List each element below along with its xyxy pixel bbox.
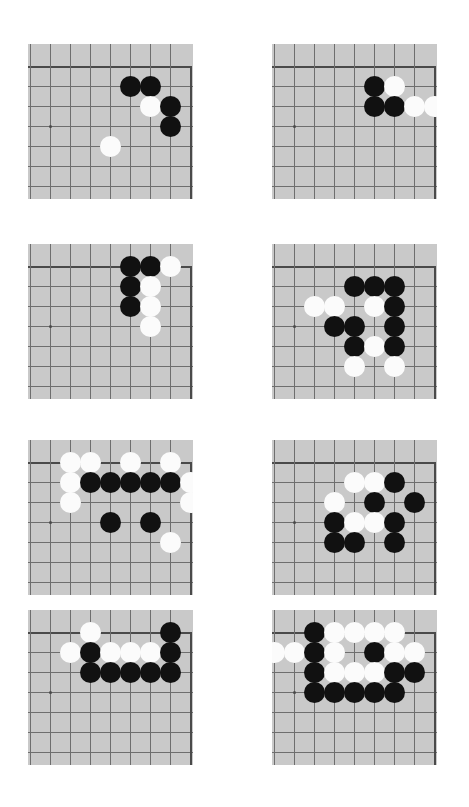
grid-line-vertical <box>150 610 151 765</box>
grid-line-vertical <box>294 440 295 595</box>
black-stone <box>344 316 365 337</box>
black-stone <box>100 512 121 533</box>
white-stone <box>160 256 181 277</box>
star-point-icon <box>293 125 296 128</box>
black-stone <box>364 492 385 513</box>
white-stone <box>80 622 101 643</box>
white-stone <box>272 642 285 663</box>
white-stone <box>120 642 141 663</box>
white-stone <box>384 356 405 377</box>
black-stone <box>120 472 141 493</box>
white-stone <box>324 662 345 683</box>
black-stone <box>160 662 181 683</box>
board-grid <box>28 610 193 765</box>
grid-line-vertical <box>110 244 111 399</box>
grid-line-vertical <box>50 610 51 765</box>
grid-line-vertical <box>30 610 31 765</box>
grid-line-vertical <box>30 244 31 399</box>
black-stone <box>160 116 181 137</box>
black-stone <box>384 316 405 337</box>
black-stone <box>384 682 405 703</box>
white-stone <box>284 642 305 663</box>
grid-line-vertical <box>130 610 131 765</box>
white-stone <box>364 622 385 643</box>
black-stone <box>384 336 405 357</box>
black-stone <box>160 622 181 643</box>
go-board-4 <box>272 244 437 399</box>
white-stone <box>404 96 425 117</box>
star-point-icon <box>49 125 52 128</box>
black-stone <box>364 642 385 663</box>
black-stone <box>304 642 325 663</box>
black-stone <box>120 276 141 297</box>
black-stone <box>384 662 405 683</box>
white-stone <box>140 96 161 117</box>
white-stone <box>364 336 385 357</box>
grid-line-vertical <box>354 44 355 199</box>
go-board-3 <box>28 244 193 399</box>
white-stone <box>140 296 161 317</box>
black-stone <box>120 256 141 277</box>
black-stone <box>160 96 181 117</box>
black-stone <box>120 662 141 683</box>
white-stone <box>324 296 345 317</box>
grid-line-vertical <box>274 610 275 765</box>
board-grid <box>272 44 437 199</box>
black-stone <box>80 642 101 663</box>
black-stone <box>324 316 345 337</box>
grid-line-vertical <box>50 440 51 595</box>
go-diagram-grid <box>0 0 469 807</box>
grid-line-vertical <box>50 244 51 399</box>
grid-line-vertical <box>334 44 335 199</box>
white-stone <box>384 76 405 97</box>
white-stone <box>80 452 101 473</box>
board-grid <box>28 44 193 199</box>
white-stone <box>140 316 161 337</box>
black-stone <box>384 96 405 117</box>
black-stone <box>364 276 385 297</box>
grid-line-vertical <box>274 440 275 595</box>
black-stone <box>384 296 405 317</box>
white-stone <box>60 492 81 513</box>
grid-line-vertical <box>414 440 415 595</box>
star-point-icon <box>49 325 52 328</box>
black-stone <box>344 532 365 553</box>
white-stone <box>60 642 81 663</box>
grid-line-vertical <box>274 44 275 199</box>
grid-line-vertical <box>70 244 71 399</box>
white-stone <box>344 662 365 683</box>
black-stone <box>344 682 365 703</box>
board-edge-line-right <box>434 632 436 765</box>
grid-line-vertical <box>414 610 415 765</box>
black-stone <box>324 682 345 703</box>
board-edge-line-right <box>434 66 436 199</box>
black-stone <box>140 76 161 97</box>
star-point-icon <box>293 325 296 328</box>
white-stone <box>364 662 385 683</box>
star-point-icon <box>293 691 296 694</box>
board-grid <box>28 244 193 399</box>
black-stone <box>120 296 141 317</box>
go-board-7 <box>28 610 193 765</box>
board-grid <box>272 610 437 765</box>
grid-line-vertical <box>70 610 71 765</box>
black-stone <box>160 642 181 663</box>
board-grid <box>28 440 193 595</box>
black-stone <box>100 662 121 683</box>
star-point-icon <box>49 691 52 694</box>
white-stone <box>384 622 405 643</box>
white-stone <box>344 622 365 643</box>
grid-line-vertical <box>394 44 395 199</box>
white-stone <box>120 452 141 473</box>
black-stone <box>384 512 405 533</box>
black-stone <box>364 682 385 703</box>
white-stone <box>324 492 345 513</box>
grid-line-vertical <box>314 244 315 399</box>
white-stone <box>60 452 81 473</box>
grid-line-vertical <box>50 44 51 199</box>
white-stone <box>60 472 81 493</box>
grid-line-vertical <box>374 44 375 199</box>
grid-line-vertical <box>110 610 111 765</box>
white-stone <box>324 622 345 643</box>
grid-line-vertical <box>274 244 275 399</box>
